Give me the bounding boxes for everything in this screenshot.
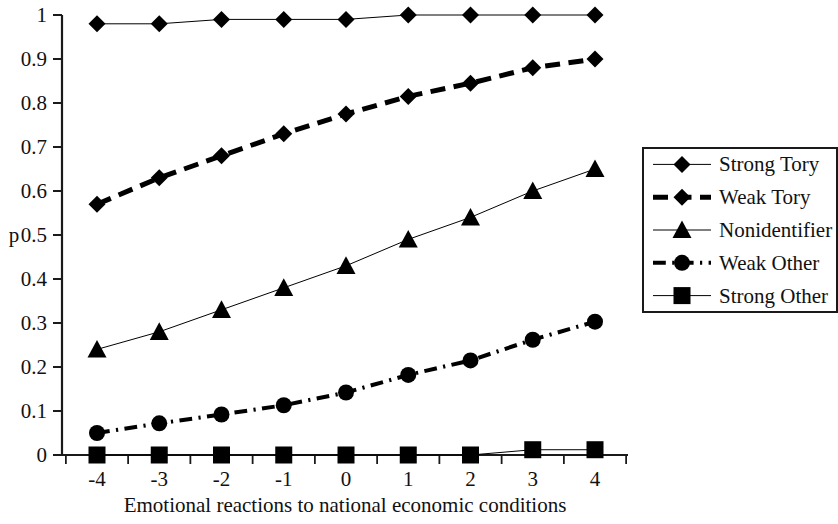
y-axis-tick-label: 0.6 [21, 179, 47, 203]
y-axis-title: p [9, 223, 20, 247]
x-axis-tick-label: 1 [403, 467, 414, 491]
data-point-marker [462, 447, 479, 464]
chart-figure: 00.10.20.30.40.50.60.70.80.91 -4-3-2-101… [0, 0, 838, 524]
data-point-marker [275, 11, 292, 28]
data-point-marker [276, 397, 292, 413]
legend-marker-swatch [674, 287, 691, 304]
data-point-marker [462, 75, 479, 92]
data-point-marker [587, 314, 603, 330]
data-point-marker [88, 340, 107, 358]
data-point-marker [151, 447, 168, 464]
data-point-marker [213, 447, 230, 464]
data-point-marker [587, 7, 604, 24]
y-axis-tick-label: 0.4 [21, 267, 48, 291]
data-point-marker [338, 447, 355, 464]
y-axis-tick-label: 0 [37, 443, 48, 467]
data-point-marker [400, 88, 417, 105]
x-axis-tick-label: -3 [151, 467, 169, 491]
data-point-marker [462, 7, 479, 24]
data-point-marker [587, 441, 604, 458]
x-axis-tick-label: 4 [590, 467, 601, 491]
y-axis-tick-label: 0.7 [21, 135, 47, 159]
data-point-marker [212, 300, 231, 318]
series-line [97, 59, 595, 204]
legend-item-label: Strong Other [719, 284, 828, 308]
data-point-marker [524, 441, 541, 458]
data-point-marker [587, 51, 604, 68]
data-point-marker [400, 447, 417, 464]
series-nonidentifier [88, 160, 605, 358]
y-axis-tick-label: 0.8 [21, 91, 47, 115]
data-point-marker [399, 230, 418, 248]
x-axis-tick-label: -4 [88, 467, 106, 491]
data-point-marker [400, 7, 417, 24]
x-axis-title: Emotional reactions to national economic… [124, 493, 567, 517]
x-axis-tick-label: -1 [275, 467, 293, 491]
y-axis-tick-label: 0.3 [21, 311, 47, 335]
y-axis-tick-label: 0.1 [21, 399, 47, 423]
data-point-marker [524, 59, 541, 76]
data-point-marker [213, 147, 230, 164]
legend-marker-swatch [674, 255, 690, 271]
legend-item-label: Weak Other [719, 251, 819, 275]
data-point-marker [586, 160, 605, 178]
data-point-marker [89, 425, 105, 441]
legend-item-label: Weak Tory [719, 185, 811, 209]
chart-legend: Strong ToryWeak ToryNonidentifierWeak Ot… [643, 148, 837, 312]
data-point-marker [338, 106, 355, 123]
data-point-marker [338, 11, 355, 28]
data-point-marker [400, 367, 416, 383]
series-strong-other [89, 441, 604, 463]
data-point-marker [89, 15, 106, 32]
y-axis-tick-label: 0.5 [21, 223, 47, 247]
legend-item-strong-other: Strong Other [653, 284, 828, 308]
x-axis-tick-label: -2 [213, 467, 231, 491]
y-axis-tick-label: 0.9 [21, 47, 47, 71]
x-axis-tick-label: 3 [528, 467, 539, 491]
data-point-marker [274, 278, 293, 296]
data-point-marker [463, 352, 479, 368]
data-point-marker [213, 11, 230, 28]
data-series-group [88, 7, 605, 464]
data-point-marker [525, 332, 541, 348]
legend-item-label: Strong Tory [719, 152, 820, 176]
data-point-marker [214, 407, 230, 423]
x-axis-tick-label: 0 [341, 467, 352, 491]
y-axis-tick-label: 1 [37, 3, 48, 27]
series-strong-tory [89, 7, 604, 33]
series-line [97, 322, 595, 433]
data-point-marker [461, 208, 480, 226]
y-axis-tick-label: 0.2 [21, 355, 47, 379]
data-point-marker [524, 7, 541, 24]
data-point-marker [150, 322, 169, 340]
data-point-marker [275, 125, 292, 142]
y-axis: 00.10.20.30.40.50.60.70.80.91 [21, 3, 62, 467]
data-point-marker [337, 256, 356, 274]
data-point-marker [338, 385, 354, 401]
data-point-marker [151, 415, 167, 431]
series-weak-tory [89, 51, 604, 213]
data-point-marker [523, 182, 542, 200]
data-point-marker [151, 15, 168, 32]
data-point-marker [89, 447, 106, 464]
legend-item-label: Nonidentifier [719, 218, 832, 242]
data-point-marker [89, 196, 106, 213]
data-point-marker [151, 169, 168, 186]
x-axis-tick-label: 2 [465, 467, 476, 491]
series-weak-other [89, 314, 603, 441]
data-point-marker [275, 447, 292, 464]
line-chart: 00.10.20.30.40.50.60.70.80.91 -4-3-2-101… [0, 0, 838, 524]
